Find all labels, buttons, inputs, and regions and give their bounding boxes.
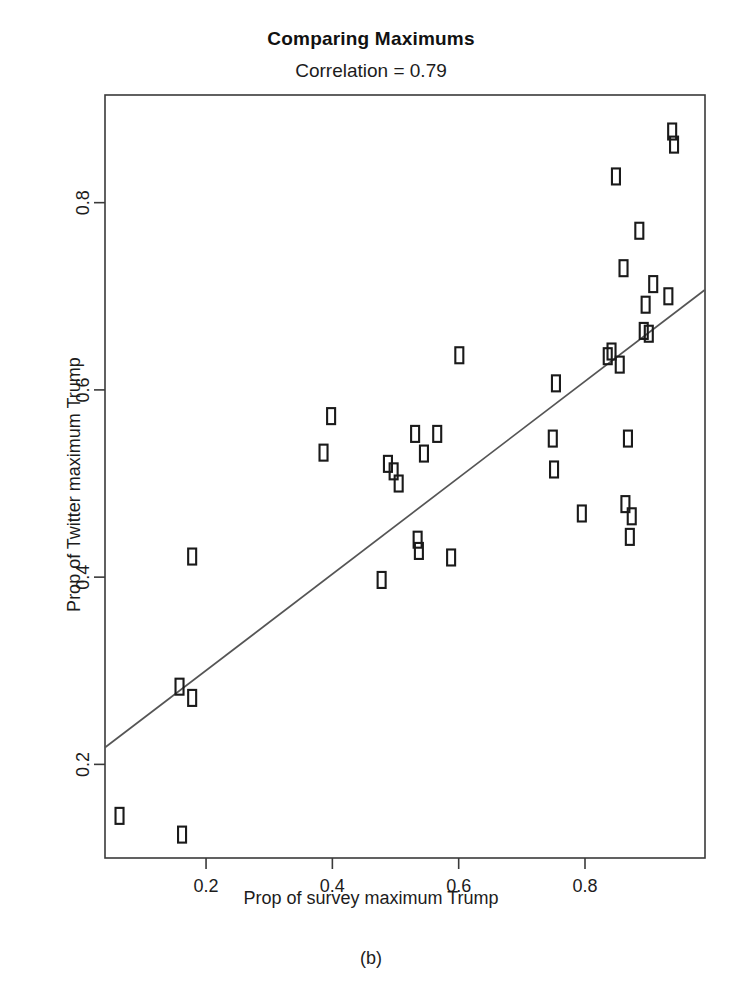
data-point xyxy=(455,347,463,363)
data-point xyxy=(578,505,586,521)
data-point xyxy=(178,827,186,843)
data-point xyxy=(188,549,196,565)
data-point xyxy=(649,276,657,292)
data-point xyxy=(612,168,620,184)
data-point xyxy=(616,357,624,373)
data-point xyxy=(378,572,386,588)
data-point xyxy=(327,408,335,424)
data-point xyxy=(620,260,628,276)
data-point xyxy=(624,431,632,447)
data-point xyxy=(626,529,634,545)
data-point xyxy=(549,431,557,447)
data-point xyxy=(433,426,441,442)
y-axis-label: Prop of Twitter maximum Trump xyxy=(64,185,85,785)
data-point xyxy=(188,690,196,706)
data-point xyxy=(320,445,328,461)
data-point xyxy=(550,461,558,477)
data-point xyxy=(420,446,428,462)
plot-frame xyxy=(105,95,705,858)
data-point xyxy=(635,223,643,239)
data-point xyxy=(552,375,560,391)
data-point xyxy=(116,808,124,824)
data-points-group xyxy=(116,124,679,843)
data-point xyxy=(411,426,419,442)
figure-container: Comparing Maximums Correlation = 0.79 0.… xyxy=(0,0,742,998)
figure-caption: (b) xyxy=(0,948,742,969)
scatter-plot: 0.20.40.60.80.20.40.60.8 xyxy=(0,0,742,998)
data-point xyxy=(447,549,455,565)
x-axis-label: Prop of survey maximum Trump xyxy=(0,888,742,909)
data-point xyxy=(664,288,672,304)
data-point xyxy=(642,297,650,313)
